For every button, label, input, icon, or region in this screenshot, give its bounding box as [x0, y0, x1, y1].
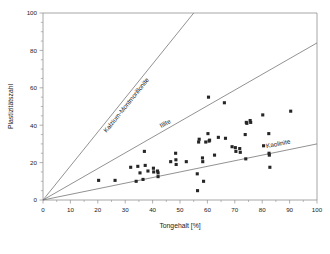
data-point	[267, 132, 270, 135]
data-point	[198, 138, 201, 141]
x-tick-label: 0	[41, 206, 45, 213]
data-point	[201, 156, 204, 159]
data-point	[213, 154, 216, 157]
x-tick-label: 90	[286, 206, 293, 213]
data-point	[268, 166, 271, 169]
data-point	[224, 137, 227, 140]
data-point	[174, 152, 177, 155]
data-point	[202, 180, 205, 183]
data-point	[223, 101, 226, 104]
y-tick-label: 100	[27, 9, 38, 16]
data-point	[152, 170, 155, 173]
scatter-plot-figure: 0102030405060708090100020406080100Tongeh…	[0, 0, 330, 254]
data-point	[239, 151, 242, 154]
x-tick-label: 80	[259, 206, 266, 213]
x-axis-title: Tongehalt [%]	[159, 222, 200, 230]
data-point	[141, 178, 144, 181]
reference-line-illite	[43, 43, 317, 200]
data-point	[244, 157, 247, 160]
data-point	[261, 113, 264, 116]
x-tick-label: 30	[122, 206, 129, 213]
data-point	[197, 140, 200, 143]
x-tick-label: 20	[94, 206, 101, 213]
data-point	[208, 139, 211, 142]
x-tick-label: 100	[312, 206, 323, 213]
data-point	[231, 145, 234, 148]
data-point	[249, 121, 252, 124]
x-tick-label: 60	[204, 206, 211, 213]
data-point	[201, 160, 204, 163]
y-axis-title: Plastizitätszahl	[7, 84, 14, 129]
data-point	[245, 122, 248, 125]
y-tick-label: 80	[30, 47, 37, 54]
data-point	[217, 136, 220, 139]
data-point	[135, 180, 138, 183]
data-point	[157, 171, 160, 174]
data-point	[146, 169, 149, 172]
x-tick-label: 10	[67, 206, 74, 213]
data-point	[244, 133, 247, 136]
x-tick-label: 40	[149, 206, 156, 213]
reference-line-label-kalzium-montmorillonite: Kalzium-Montmorillonite	[102, 76, 151, 134]
data-point	[196, 172, 199, 175]
x-tick-label: 50	[177, 206, 184, 213]
reference-line-kaolinite	[43, 144, 317, 200]
data-point	[289, 110, 292, 113]
y-tick-label: 40	[30, 122, 37, 129]
data-point	[206, 132, 209, 135]
data-point	[196, 189, 199, 192]
data-point	[234, 150, 237, 153]
data-point	[152, 167, 155, 170]
data-point	[238, 147, 241, 150]
data-point	[185, 160, 188, 163]
reference-line-label-kaolinite: Kaolinite	[265, 137, 291, 149]
reference-line-kalzium-montmorillonite	[43, 13, 194, 200]
data-point	[262, 144, 265, 147]
data-point	[204, 140, 207, 143]
data-point	[144, 164, 147, 167]
data-point	[169, 160, 172, 163]
data-point	[268, 154, 271, 157]
data-point	[174, 158, 177, 161]
data-point	[138, 171, 141, 174]
y-tick-label: 0	[34, 196, 38, 203]
plot-canvas: 0102030405060708090100020406080100Tongeh…	[0, 0, 330, 254]
y-tick-label: 60	[30, 84, 37, 91]
data-point	[157, 175, 160, 178]
data-point	[114, 179, 117, 182]
data-point	[207, 96, 210, 99]
x-tick-label: 70	[231, 206, 238, 213]
data-point	[136, 165, 139, 168]
data-point	[129, 166, 132, 169]
data-point	[175, 163, 178, 166]
y-tick-label: 20	[30, 159, 37, 166]
data-point	[234, 146, 237, 149]
data-point	[143, 150, 146, 153]
data-point	[97, 179, 100, 182]
